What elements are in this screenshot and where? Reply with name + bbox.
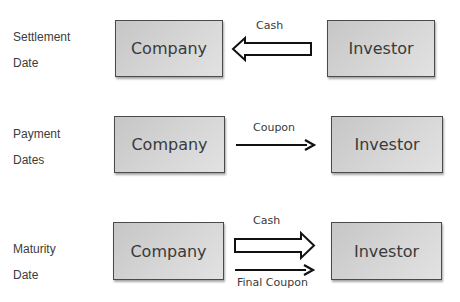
row-label-line2: Date <box>13 52 70 74</box>
row-label-payment: Payment Dates <box>13 123 60 171</box>
row-label-settlement: Settlement Date <box>13 26 70 74</box>
row-label-maturity: Maturity Date <box>13 238 56 286</box>
investor-box-settlement: Investor <box>327 20 435 77</box>
line-arrow-right-icon <box>234 264 316 276</box>
company-box-payment: Company <box>114 116 225 173</box>
flow-label-coupon: Coupon <box>253 121 295 134</box>
investor-box-payment: Investor <box>331 116 443 173</box>
block-arrow-right-icon <box>233 232 317 259</box>
investor-box-maturity: Investor <box>331 222 442 280</box>
block-arrow-left-icon <box>232 37 314 61</box>
flow-label-final-coupon: Final Coupon <box>237 276 308 289</box>
row-label-line1: Settlement <box>13 26 70 48</box>
row-label-line1: Payment <box>13 123 60 145</box>
row-label-line1: Maturity <box>13 238 56 260</box>
row-label-line2: Dates <box>13 149 60 171</box>
company-box-settlement: Company <box>115 20 223 77</box>
company-box-maturity: Company <box>113 222 224 280</box>
flow-label-cash-settlement: Cash <box>256 19 283 32</box>
line-arrow-right-icon <box>235 139 317 151</box>
flow-label-cash-maturity: Cash <box>253 214 280 227</box>
row-label-line2: Date <box>13 264 56 286</box>
